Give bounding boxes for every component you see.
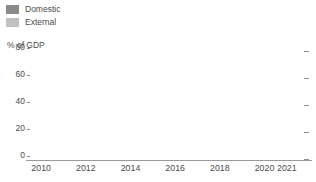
plot-area <box>30 52 298 160</box>
y-axis-tick: 20 <box>16 123 30 133</box>
bar-slot <box>75 52 97 160</box>
y-axis-tick: 60 <box>16 69 30 79</box>
right-edge-tick-marks <box>304 52 312 160</box>
y-axis: 020406080 <box>0 52 30 160</box>
x-axis-tick-label: 2010 <box>31 164 51 173</box>
x-axis-tick-label: 2020 <box>255 164 275 173</box>
bar-group <box>30 52 298 160</box>
y-axis-tick-label: 0 <box>20 151 25 160</box>
chart-legend: Domestic External <box>6 3 60 29</box>
bar-slot <box>119 52 141 160</box>
x-axis-tick-label: 2012 <box>76 164 96 173</box>
x-axis-tick-label: 2014 <box>121 164 141 173</box>
bar-slot <box>30 52 52 160</box>
right-edge-tick-mark <box>304 78 309 79</box>
bar-slot <box>276 52 298 160</box>
bar-slot <box>142 52 164 160</box>
bar-slot <box>186 52 208 160</box>
bar-slot <box>231 52 253 160</box>
x-axis-tick-label: 2016 <box>165 164 185 173</box>
right-edge-tick-mark <box>304 51 309 52</box>
y-axis-tick-mark <box>27 48 30 49</box>
x-axis-tick-label: 2018 <box>210 164 230 173</box>
bar-slot <box>253 52 275 160</box>
y-axis-tick-label: 20 <box>16 124 25 133</box>
legend-label-domestic: Domestic <box>25 5 60 14</box>
right-edge-tick-mark <box>304 105 309 106</box>
y-axis-tick: 40 <box>16 96 30 106</box>
x-axis-tick-label: 2021 <box>277 164 297 173</box>
legend-swatch-external-icon <box>6 18 19 27</box>
y-axis-tick-label: 60 <box>16 70 25 79</box>
bar-slot <box>209 52 231 160</box>
bar-slot <box>97 52 119 160</box>
legend-label-external: External <box>25 18 56 27</box>
right-edge-tick-mark <box>304 132 309 133</box>
x-axis-baseline <box>26 160 312 161</box>
stacked-bar-chart-figure: Domestic External % of GDP 020406080 201… <box>0 0 316 182</box>
bar-slot <box>52 52 74 160</box>
y-axis-tick: 0 <box>20 150 30 160</box>
y-axis-tick: 80 <box>16 42 30 52</box>
y-axis-tick-label: 40 <box>16 97 25 106</box>
y-axis-tick-label: 80 <box>16 43 25 52</box>
legend-swatch-domestic-icon <box>6 5 19 14</box>
x-axis: 2010201220142016201820202021 <box>30 164 298 178</box>
bar-slot <box>164 52 186 160</box>
legend-item-domestic: Domestic <box>6 3 60 15</box>
legend-item-external: External <box>6 16 60 28</box>
